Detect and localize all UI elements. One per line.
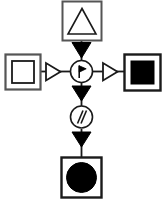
circle-filled-icon <box>67 163 97 193</box>
middle-node[interactable] <box>71 106 93 128</box>
top-node[interactable] <box>63 2 102 41</box>
left-node[interactable] <box>6 55 41 90</box>
square-filled-icon <box>131 61 154 84</box>
middle-node-circle <box>71 106 93 128</box>
bottom-node[interactable] <box>62 158 102 198</box>
diagram-canvas: Cross-shaped process flow diagram triang… <box>0 0 166 211</box>
right-node[interactable] <box>125 55 161 91</box>
center-node[interactable] <box>71 61 93 83</box>
square-outline-icon <box>12 61 34 83</box>
diagram-svg <box>0 0 166 211</box>
